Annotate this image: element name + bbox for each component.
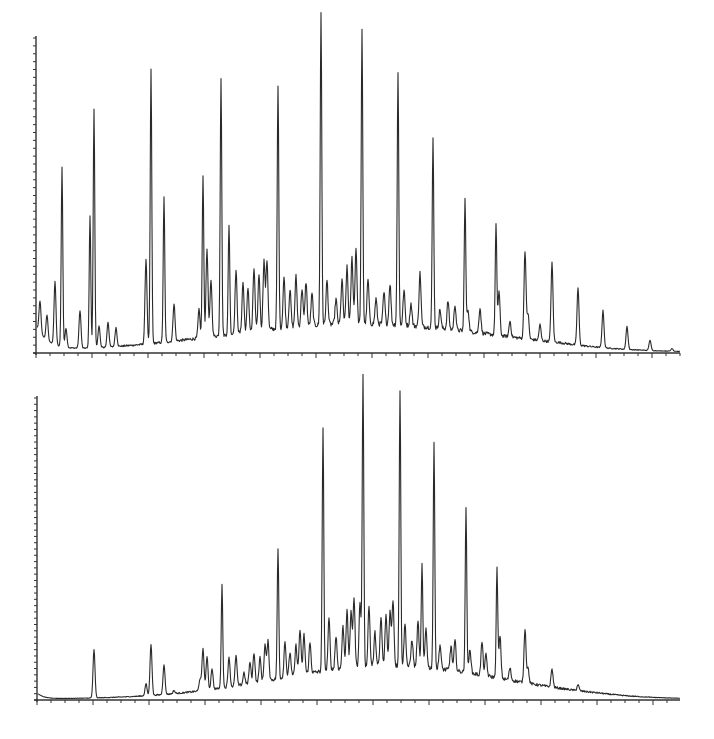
upper-trace bbox=[37, 13, 680, 352]
upper-chromatogram bbox=[33, 13, 680, 359]
chromatogram-figure bbox=[0, 0, 714, 739]
lower-chromatogram bbox=[34, 374, 680, 705]
upper-axes bbox=[33, 36, 680, 358]
lower-axes bbox=[34, 396, 680, 705]
lower-trace bbox=[38, 374, 680, 698]
